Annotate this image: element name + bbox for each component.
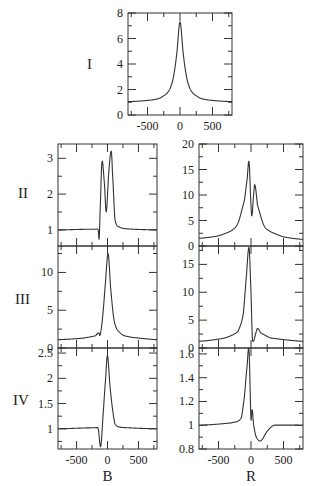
panel-ii-r: 05101520	[182, 137, 303, 253]
axes-frame	[58, 348, 157, 449]
y-tick-label: 0.8	[179, 442, 194, 456]
data-line	[128, 22, 232, 102]
panel-iv-b: 11.522.5-5000500BIV	[13, 346, 157, 484]
x-tick-label: 0	[248, 453, 254, 467]
y-tick-label: 15	[182, 163, 194, 177]
y-tick-label: 2	[47, 371, 53, 385]
panel-iv-r: 0.811.21.41.6-5000500R	[179, 347, 303, 484]
y-tick-label: 6	[117, 32, 123, 46]
data-line	[199, 247, 303, 341]
y-tick-label: 1	[47, 422, 53, 436]
x-tick-label: 0	[105, 453, 111, 467]
y-tick-label: 10	[182, 188, 194, 202]
y-tick-label: 1.6	[179, 347, 194, 361]
y-tick-label: 1	[47, 223, 53, 237]
row-label: III	[15, 291, 30, 307]
y-tick-label: 0	[117, 108, 123, 122]
x-tick-label: 500	[275, 453, 293, 467]
y-tick-label: 1.4	[179, 371, 194, 385]
panel-iii-b: 0510III	[15, 246, 157, 355]
x-axis-label: B	[102, 468, 112, 484]
x-tick-label: -500	[66, 453, 88, 467]
y-tick-label: 5	[188, 313, 194, 327]
y-tick-label: 1.5	[38, 397, 53, 411]
data-line	[199, 348, 303, 441]
y-tick-label: 1.2	[179, 394, 194, 408]
y-tick-label: 5	[188, 214, 194, 228]
x-tick-label: 500	[129, 453, 147, 467]
data-line	[58, 356, 157, 447]
row-label: IV	[13, 392, 29, 408]
x-axis-label: R	[246, 468, 256, 484]
row-label: I	[87, 56, 92, 72]
y-tick-label: 5	[47, 303, 53, 317]
row-label: II	[18, 185, 28, 201]
x-tick-label: -500	[137, 119, 159, 133]
data-line	[58, 151, 157, 239]
panel-i: 02468-5000500I	[87, 6, 232, 133]
y-tick-label: 2.5	[38, 346, 53, 360]
y-tick-label: 15	[182, 257, 194, 271]
y-tick-label: 2	[47, 187, 53, 201]
y-tick-label: 20	[182, 137, 194, 151]
y-tick-label: 0	[188, 239, 194, 253]
panel-ii-b: 123II	[18, 144, 157, 246]
axes-frame	[128, 13, 232, 115]
y-tick-label: 10	[41, 265, 53, 279]
x-tick-label: 0	[177, 119, 183, 133]
figure-canvas: 02468-5000500I123II051015200510III051015…	[0, 0, 311, 486]
x-tick-label: -500	[208, 453, 230, 467]
data-line	[199, 161, 303, 239]
y-tick-label: 8	[117, 6, 123, 20]
axes-frame	[199, 348, 303, 449]
panel-iii-r: 051015	[182, 246, 303, 355]
y-tick-label: 2	[117, 83, 123, 97]
y-tick-label: 10	[182, 285, 194, 299]
x-tick-label: 500	[204, 119, 222, 133]
y-tick-label: 3	[47, 151, 53, 165]
y-tick-label: 1	[188, 418, 194, 432]
data-line	[58, 254, 157, 340]
y-tick-label: 4	[117, 57, 123, 71]
